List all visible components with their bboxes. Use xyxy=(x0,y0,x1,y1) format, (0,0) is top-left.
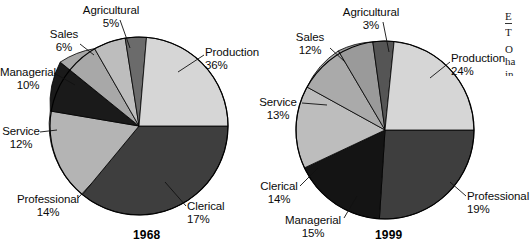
label-value: 10% xyxy=(0,79,56,92)
label-text: Clerical xyxy=(257,180,301,193)
label-1999-sales: Sales 12% xyxy=(292,31,328,57)
edge-text-line-2: T xyxy=(505,26,530,39)
label-value: 12% xyxy=(292,44,328,57)
label-value: 24% xyxy=(451,65,505,78)
label-text: Production xyxy=(205,46,259,59)
label-text: Agricultural xyxy=(78,4,144,17)
label-value: 15% xyxy=(282,227,344,240)
label-1968-agricultural: Agricultural 5% xyxy=(78,4,144,30)
label-text: Clerical xyxy=(187,200,225,213)
label-text: Agricultural xyxy=(338,6,404,19)
edge-body-text-column: E T O ha in xyxy=(505,6,530,76)
label-1999-agricultural: Agricultural 3% xyxy=(338,6,404,32)
label-text: Sales xyxy=(46,28,82,41)
label-1968-clerical: Clerical 17% xyxy=(187,200,225,226)
label-text: Managerial xyxy=(0,66,56,79)
label-value: 3% xyxy=(338,19,404,32)
label-value: 14% xyxy=(257,193,301,206)
label-text: Professional xyxy=(467,190,529,203)
label-1999-managerial: Managerial 15% xyxy=(282,214,344,240)
label-value: 36% xyxy=(205,59,259,72)
label-1999-clerical: Clerical 14% xyxy=(257,180,301,206)
label-text: Service xyxy=(0,125,42,138)
label-value: 6% xyxy=(46,41,82,54)
label-text: Service xyxy=(256,96,300,109)
label-value: 14% xyxy=(14,206,82,219)
edge-text-heading: E xyxy=(505,10,512,24)
label-text: Professional xyxy=(14,193,82,206)
label-1968-production: Production 36% xyxy=(205,46,259,72)
label-text: Managerial xyxy=(282,214,344,227)
label-value: 5% xyxy=(78,17,144,30)
label-value: 13% xyxy=(256,109,300,122)
label-1968-sales: Sales 6% xyxy=(46,28,82,54)
label-1999-service: Service 13% xyxy=(256,96,300,122)
label-1999-production: Production 24% xyxy=(451,52,505,78)
label-1968-managerial: Managerial 10% xyxy=(0,66,56,92)
edge-text-line-3: O xyxy=(505,43,530,56)
edge-text-line-5: in xyxy=(505,68,530,77)
year-label-1968: 1968 xyxy=(133,228,161,242)
label-value: 19% xyxy=(467,203,529,216)
pie-1999 xyxy=(296,41,474,219)
edge-text-line-4: ha xyxy=(505,55,530,68)
label-1968-professional: Professional 14% xyxy=(14,193,82,219)
slice-1999-production xyxy=(379,130,474,219)
label-1968-service: Service 12% xyxy=(0,125,42,151)
label-text: Production xyxy=(451,52,505,65)
label-value: 17% xyxy=(187,213,225,226)
year-label-1999: 1999 xyxy=(375,228,403,242)
label-text: Sales xyxy=(292,31,328,44)
pie-1968 xyxy=(49,37,228,215)
pie-chart-figure: Production 36% Clerical 17% Professional… xyxy=(0,0,530,250)
label-1999-professional: Professional 19% xyxy=(467,190,529,216)
label-value: 12% xyxy=(0,138,42,151)
